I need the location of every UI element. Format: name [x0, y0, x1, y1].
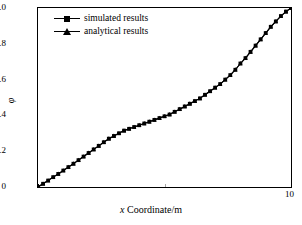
- y-tick-label: 1.0: [0, 3, 6, 12]
- legend-label-simulated: simulated results: [84, 13, 148, 24]
- x-tick-mark: [38, 184, 39, 188]
- triangle-marker-icon: [54, 26, 80, 37]
- legend-item-simulated: simulated results: [54, 12, 148, 25]
- x-tick-mark: [165, 184, 166, 188]
- y-axis-label: φ: [5, 90, 16, 112]
- y-tick-label: 0.8: [0, 39, 6, 48]
- chart-legend: simulated results analytical results: [54, 12, 148, 38]
- square-marker-icon: [54, 13, 80, 24]
- y-tick-label: 0: [0, 182, 6, 191]
- y-tick-label: 0.2: [0, 146, 6, 155]
- x-axis-label: x Coordinate/m: [0, 204, 302, 215]
- y-tick-label: 0.6: [0, 75, 6, 84]
- legend-item-analytical: analytical results: [54, 25, 148, 38]
- y-tick-label: 0.4: [0, 110, 6, 119]
- legend-label-analytical: analytical results: [84, 26, 148, 37]
- x-axis-label-text: Coordinate/m: [124, 204, 182, 215]
- x-tick-label: 10: [285, 189, 294, 199]
- chart-figure: φ 00.20.40.60.81.0 10 x Coordinate/m sim…: [0, 0, 302, 225]
- x-tick-mark: [291, 184, 292, 188]
